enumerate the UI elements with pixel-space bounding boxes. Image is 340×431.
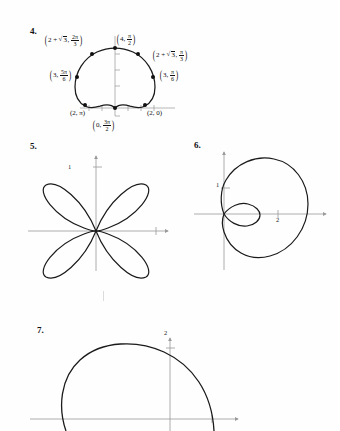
figure-6-y-tick-label: 1	[216, 182, 219, 189]
label-point-pi-6: (3, π6)	[159, 69, 179, 83]
label-point-5pi-6: (3, 5π6)	[49, 69, 72, 83]
figure-6-limacon	[186, 142, 336, 277]
label-point-2pi-3: (2 + 3, 2π3)	[44, 34, 83, 48]
figure-7-axes	[30, 338, 238, 431]
circle-arc-curve	[62, 344, 214, 431]
label-point-zero: (2, 0)	[147, 110, 162, 117]
limacon-inner-loop	[224, 203, 260, 226]
label-point-pi-2: (4, π2)	[116, 33, 136, 47]
label-point-3pi-2: (0, 3π2)	[92, 119, 115, 133]
figure-7-circle	[26, 330, 246, 431]
figure-5-axes	[28, 156, 168, 271]
figure-7-y-tick-label: 2	[164, 330, 167, 337]
scan-artifact-mark	[103, 291, 104, 301]
figure-6-svg	[186, 142, 336, 277]
problem-number-4: 4.	[30, 26, 37, 36]
figure-6-axes	[194, 152, 326, 270]
figure-7-svg	[26, 330, 246, 431]
figure-5-svg	[22, 143, 172, 278]
limacon-outer-loop	[221, 158, 308, 258]
figure-5-y-tick-label: 1	[68, 164, 71, 171]
label-point-pi: (2, π)	[70, 110, 85, 117]
figure-6-x-tick-label: 2	[276, 217, 279, 224]
figure-5-rose	[22, 143, 172, 278]
answer-page: 4.	[0, 0, 340, 431]
label-point-pi-3: (2 + 3, π3)	[152, 49, 188, 63]
